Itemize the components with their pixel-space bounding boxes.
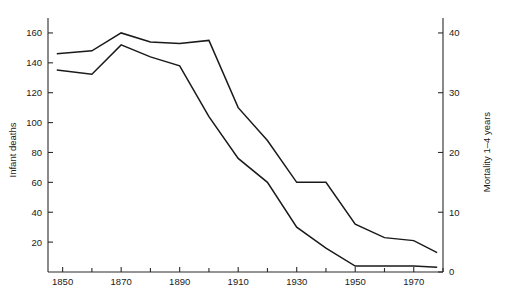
right-tick-label: 10 <box>449 207 460 218</box>
x-tick-label: 1890 <box>169 276 190 287</box>
left-tick-label: 100 <box>26 117 42 128</box>
x-tick-label: 1970 <box>403 276 424 287</box>
series-line-infant-deaths <box>57 33 437 253</box>
x-tick-label: 1910 <box>228 276 249 287</box>
left-tick-label: 60 <box>31 177 42 188</box>
chart-container: 20406080100120140160 010203040 185018701… <box>0 0 506 307</box>
left-axis-ticks: 20406080100120140160 <box>26 27 53 247</box>
right-axis-ticks: 010203040 <box>438 27 460 277</box>
series-line-mortality-1-4-years <box>57 45 437 267</box>
x-tick-label: 1870 <box>111 276 132 287</box>
mortality-line-chart: 20406080100120140160 010203040 185018701… <box>0 0 506 307</box>
x-tick-label: 1850 <box>52 276 73 287</box>
x-tick-label: 1930 <box>286 276 307 287</box>
left-tick-label: 140 <box>26 57 42 68</box>
right-axis-title: Mortality 1–4 years <box>481 112 492 193</box>
left-tick-label: 80 <box>31 147 42 158</box>
right-tick-label: 20 <box>449 147 460 158</box>
left-tick-label: 20 <box>31 237 42 248</box>
right-tick-label: 40 <box>449 27 460 38</box>
x-tick-label: 1950 <box>345 276 366 287</box>
left-tick-label: 160 <box>26 27 42 38</box>
right-tick-label: 0 <box>449 266 454 277</box>
left-axis-title: Infant deaths <box>7 122 18 177</box>
right-tick-label: 30 <box>449 87 460 98</box>
left-tick-label: 120 <box>26 87 42 98</box>
x-axis-ticks: 1850187018901910193019501970 <box>52 267 443 287</box>
left-tick-label: 40 <box>31 207 42 218</box>
